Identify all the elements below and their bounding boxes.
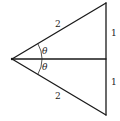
- label-side-top: 1: [111, 28, 117, 38]
- bottom-hypotenuse-edge: [12, 59, 106, 115]
- label-angle-top: θ: [42, 46, 48, 56]
- triangle-diagram: 2 2 1 1 θ θ: [0, 0, 120, 121]
- label-angle-bottom: θ: [42, 62, 48, 72]
- top-hypotenuse-edge: [12, 3, 106, 59]
- apex-vertex: [11, 58, 13, 60]
- label-hypotenuse-top: 2: [55, 19, 61, 29]
- label-hypotenuse-bottom: 2: [55, 91, 61, 101]
- label-side-bottom: 1: [111, 77, 117, 87]
